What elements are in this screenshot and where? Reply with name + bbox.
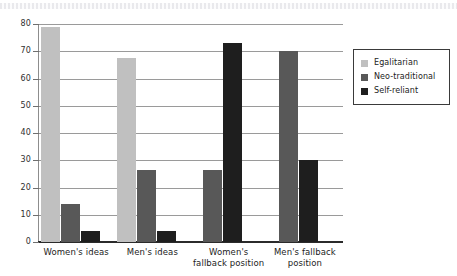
- bar-self-reliant: [223, 43, 242, 242]
- y-tick-mark: [33, 160, 39, 161]
- y-tick-mark: [33, 242, 39, 243]
- y-tick-mark: [33, 51, 39, 52]
- legend-label: Neo-traditional: [374, 73, 435, 81]
- y-tick-label: 80: [3, 20, 31, 28]
- x-tick-label-line: Men's fallback: [255, 247, 355, 258]
- y-tick-label: 50: [3, 102, 31, 110]
- legend-swatch-icon: [361, 74, 368, 81]
- legend-label: Self-reliant: [374, 87, 418, 95]
- y-tick-mark: [33, 133, 39, 134]
- bar-neo-traditional: [279, 51, 298, 242]
- y-tick-label: 60: [3, 75, 31, 83]
- y-tick-mark: [33, 79, 39, 80]
- chart-legend: EgalitarianNeo-traditionalSelf-reliant: [353, 49, 450, 105]
- plot-area: [38, 24, 343, 242]
- bar-egalitarian: [117, 58, 136, 242]
- bar-group: [114, 24, 190, 242]
- x-tick-label: Men's fallbackposition: [255, 247, 355, 269]
- y-tick-mark: [33, 24, 39, 25]
- bar-neo-traditional: [137, 170, 156, 242]
- y-tick-mark: [33, 215, 39, 216]
- bar-group: [267, 24, 343, 242]
- y-tick-label: 70: [3, 47, 31, 55]
- y-axis-tick-labels: 80706050403020100: [0, 0, 31, 276]
- bar-egalitarian: [41, 27, 60, 242]
- y-tick-mark: [33, 188, 39, 189]
- bar-neo-traditional: [203, 170, 222, 242]
- y-tick-label: 30: [3, 156, 31, 164]
- y-tick-label: 10: [3, 211, 31, 219]
- y-tick-label: 0: [3, 238, 31, 246]
- legend-item-neo-traditional[interactable]: Neo-traditional: [361, 70, 443, 84]
- legend-swatch-icon: [361, 88, 368, 95]
- bar-group: [38, 24, 114, 242]
- bar-self-reliant: [299, 160, 318, 242]
- legend-label: Egalitarian: [374, 59, 418, 67]
- grouped-bar-chart: 80706050403020100 Women's ideasMen's ide…: [0, 0, 457, 276]
- bar-self-reliant: [81, 231, 100, 242]
- legend-item-self-reliant[interactable]: Self-reliant: [361, 84, 443, 98]
- bar-self-reliant: [157, 231, 176, 242]
- y-tick-mark: [33, 106, 39, 107]
- legend-swatch-icon: [361, 60, 368, 67]
- y-tick-label: 40: [3, 129, 31, 137]
- y-tick-label: 20: [3, 184, 31, 192]
- bar-group: [191, 24, 267, 242]
- x-tick-label-line: position: [255, 258, 355, 269]
- x-axis-tick-labels: Women's ideasMen's ideasWomen'sfallback …: [38, 247, 343, 276]
- bar-neo-traditional: [61, 204, 80, 242]
- legend-item-egalitarian[interactable]: Egalitarian: [361, 56, 443, 70]
